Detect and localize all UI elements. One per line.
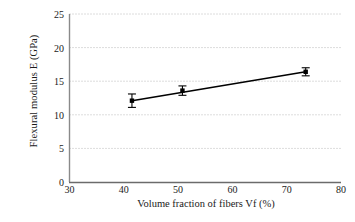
chart-figure: Flexural modulus E (GPa) 0510152025 3040…	[0, 0, 355, 222]
trend-line-segment	[132, 72, 306, 101]
error-bars	[128, 68, 310, 108]
plot-area	[0, 0, 355, 222]
axis-lines	[69, 14, 341, 183]
data-point-marker	[304, 70, 308, 74]
gridlines	[70, 14, 342, 148]
data-point-marker	[180, 88, 184, 92]
data-point-marker	[130, 98, 134, 102]
trend-line	[132, 72, 306, 101]
x-axis-title: Volume fraction of fibers Vf (%)	[70, 198, 342, 209]
